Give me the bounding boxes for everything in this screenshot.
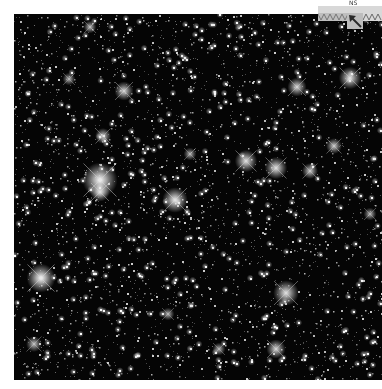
compass-box — [347, 13, 363, 29]
star-field-canvas — [14, 14, 382, 380]
image-viewer: NS — [0, 0, 382, 389]
northwest-arrow-icon — [347, 13, 363, 29]
star-field-image — [14, 14, 382, 380]
orientation-overlay: NS — [317, 0, 382, 30]
